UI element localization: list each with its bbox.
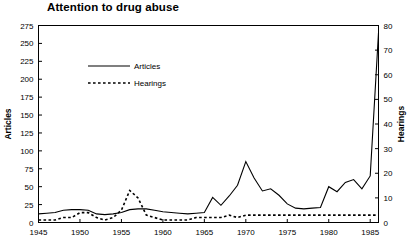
left-axis-tick-label: 225: [20, 57, 34, 66]
left-axis-tick-label: 250: [20, 39, 34, 48]
left-axis-tick-label: 50: [25, 183, 34, 192]
left-axis-tick-label: 100: [20, 147, 34, 156]
right-axis-tick-label: 80: [384, 22, 393, 31]
legend-label-articles: Articles: [134, 62, 160, 71]
right-axis-title: Hearings: [396, 106, 406, 143]
x-axis-tick-label: 1950: [71, 228, 89, 237]
right-axis-tick-label: 60: [384, 71, 393, 80]
left-axis-tick-label: 25: [25, 201, 34, 210]
left-axis-tick-label: 75: [25, 165, 34, 174]
left-axis-tick-label: 175: [20, 93, 34, 102]
x-axis-tick-label: 1945: [30, 228, 48, 237]
right-axis-tick-label: 70: [384, 46, 393, 55]
x-axis-tick-label: 1955: [113, 228, 131, 237]
left-axis-title: Articles: [3, 108, 13, 139]
legend-label-hearings: Hearings: [134, 79, 166, 88]
x-axis-tick-label: 1965: [195, 228, 213, 237]
x-axis-tick-label: 1985: [361, 228, 379, 237]
right-axis-tick-label: 40: [384, 120, 393, 129]
x-axis-tick-label: 1960: [154, 228, 172, 237]
series-articles-line: [39, 33, 379, 215]
left-axis-tick-label: 200: [20, 75, 34, 84]
plot-frame: [39, 26, 379, 223]
chart-plot-area: 0255075100125150175200225250275010203040…: [0, 0, 413, 252]
x-axis-tick-label: 1980: [320, 228, 338, 237]
right-axis-tick-label: 10: [384, 194, 393, 203]
x-axis-tick-label: 1970: [237, 228, 255, 237]
right-axis-tick-label: 50: [384, 95, 393, 104]
x-axis-tick-label: 1975: [278, 228, 296, 237]
right-axis-tick-label: 0: [384, 219, 389, 228]
left-axis-tick-label: 125: [20, 129, 34, 138]
left-axis-tick-label: 0: [29, 219, 34, 228]
chart-figure: Attention to drug abuse 0255075100125150…: [0, 0, 413, 252]
right-axis-tick-label: 20: [384, 169, 393, 178]
left-axis-tick-label: 275: [20, 22, 34, 31]
right-axis-tick-label: 30: [384, 145, 393, 154]
left-axis-tick-label: 150: [20, 111, 34, 120]
